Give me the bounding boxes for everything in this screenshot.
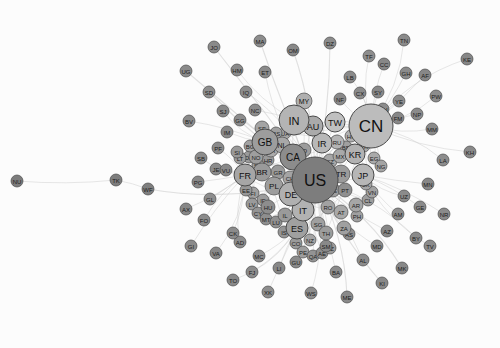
- graph-node[interactable]: TN: [398, 34, 410, 46]
- node-circle[interactable]: [195, 152, 207, 164]
- node-circle[interactable]: [198, 214, 210, 226]
- node-circle[interactable]: [396, 262, 408, 274]
- graph-node[interactable]: TW: [325, 112, 345, 132]
- graph-node[interactable]: RO: [321, 200, 335, 214]
- graph-node[interactable]: TO: [227, 274, 239, 286]
- node-circle[interactable]: [180, 65, 192, 77]
- graph-node[interactable]: GL: [204, 193, 216, 205]
- graph-node[interactable]: JO: [208, 41, 220, 53]
- node-circle[interactable]: [110, 174, 122, 186]
- node-circle[interactable]: [279, 105, 309, 135]
- graph-node[interactable]: KE: [461, 53, 473, 65]
- node-circle[interactable]: [325, 112, 345, 132]
- graph-node[interactable]: GE: [414, 201, 426, 213]
- graph-node[interactable]: MK: [396, 262, 408, 274]
- graph-node[interactable]: XK: [262, 286, 274, 298]
- node-circle[interactable]: [262, 286, 274, 298]
- node-circle[interactable]: [400, 67, 412, 79]
- graph-node[interactable]: SJ: [217, 105, 229, 117]
- graph-node[interactable]: ET: [259, 66, 271, 78]
- node-circle[interactable]: [345, 144, 365, 164]
- node-circle[interactable]: [290, 256, 302, 268]
- graph-node[interactable]: KH: [464, 146, 476, 158]
- node-circle[interactable]: [259, 66, 271, 78]
- graph-node[interactable]: GB: [252, 129, 278, 155]
- node-circle[interactable]: [217, 105, 229, 117]
- node-circle[interactable]: [204, 193, 216, 205]
- graph-node[interactable]: CC: [378, 58, 390, 70]
- node-circle[interactable]: [304, 234, 316, 246]
- node-circle[interactable]: [424, 240, 436, 252]
- graph-node[interactable]: WS: [305, 287, 317, 299]
- node-circle[interactable]: [292, 157, 338, 203]
- node-circle[interactable]: [422, 178, 434, 190]
- node-circle[interactable]: [210, 247, 222, 259]
- graph-node[interactable]: NZ: [304, 234, 316, 246]
- graph-node[interactable]: ZA: [337, 221, 351, 235]
- graph-node[interactable]: IN: [279, 105, 309, 135]
- graph-node[interactable]: TK: [110, 174, 122, 186]
- graph-node[interactable]: AT: [334, 205, 348, 219]
- graph-node[interactable]: NP: [411, 108, 423, 120]
- node-circle[interactable]: [320, 240, 332, 252]
- node-circle[interactable]: [375, 160, 387, 172]
- node-circle[interactable]: [261, 200, 275, 214]
- node-circle[interactable]: [11, 175, 23, 187]
- node-circle[interactable]: [287, 44, 299, 56]
- node-circle[interactable]: [430, 90, 442, 102]
- node-circle[interactable]: [234, 164, 256, 186]
- node-circle[interactable]: [363, 50, 375, 62]
- node-circle[interactable]: [354, 87, 366, 99]
- graph-node[interactable]: LA: [437, 154, 449, 166]
- graph-node[interactable]: VA: [210, 247, 222, 259]
- node-circle[interactable]: [142, 183, 154, 195]
- graph-node[interactable]: YE: [393, 95, 405, 107]
- node-circle[interactable]: [426, 123, 438, 135]
- graph-node[interactable]: AZ: [381, 225, 393, 237]
- node-circle[interactable]: [252, 129, 278, 155]
- graph-node[interactable]: DZ: [324, 37, 336, 49]
- graph-node[interactable]: SI: [231, 146, 243, 158]
- graph-node[interactable]: MA: [254, 35, 266, 47]
- node-circle[interactable]: [438, 208, 450, 220]
- graph-node[interactable]: FJ: [246, 266, 258, 278]
- node-circle[interactable]: [419, 69, 431, 81]
- graph-node[interactable]: NF: [334, 93, 346, 105]
- graph-node[interactable]: SB: [195, 152, 207, 164]
- node-circle[interactable]: [246, 266, 258, 278]
- graph-node[interactable]: KI: [376, 277, 388, 289]
- graph-node[interactable]: MN: [422, 178, 434, 190]
- node-circle[interactable]: [227, 274, 239, 286]
- graph-node[interactable]: IM: [221, 126, 233, 138]
- graph-node[interactable]: LB: [344, 71, 356, 83]
- node-circle[interactable]: [253, 250, 265, 262]
- graph-node[interactable]: ME: [341, 291, 353, 303]
- graph-node[interactable]: PW: [430, 90, 442, 102]
- graph-node[interactable]: NC: [249, 104, 261, 116]
- graph-node[interactable]: PF: [212, 142, 224, 154]
- node-circle[interactable]: [234, 114, 246, 126]
- graph-node[interactable]: CN: [349, 104, 393, 148]
- node-circle[interactable]: [392, 112, 404, 124]
- graph-node[interactable]: AM: [392, 208, 404, 220]
- node-circle[interactable]: [227, 227, 239, 239]
- graph-node[interactable]: SD: [203, 86, 215, 98]
- graph-node[interactable]: KR: [345, 144, 365, 164]
- node-circle[interactable]: [411, 108, 423, 120]
- graph-node[interactable]: AX: [180, 203, 192, 215]
- graph-node[interactable]: AL: [357, 254, 369, 266]
- graph-node[interactable]: BY: [410, 232, 422, 244]
- node-circle[interactable]: [376, 277, 388, 289]
- graph-node[interactable]: BV: [183, 115, 195, 127]
- node-circle[interactable]: [378, 58, 390, 70]
- graph-node[interactable]: FO: [198, 214, 210, 226]
- graph-node[interactable]: PG: [192, 176, 204, 188]
- node-circle[interactable]: [398, 34, 410, 46]
- graph-node[interactable]: OM: [287, 44, 299, 56]
- graph-node[interactable]: AR: [349, 198, 363, 212]
- node-circle[interactable]: [319, 226, 333, 240]
- node-circle[interactable]: [344, 71, 356, 83]
- graph-node[interactable]: LI: [273, 262, 285, 274]
- graph-node[interactable]: PT: [338, 183, 352, 197]
- node-circle[interactable]: [464, 146, 476, 158]
